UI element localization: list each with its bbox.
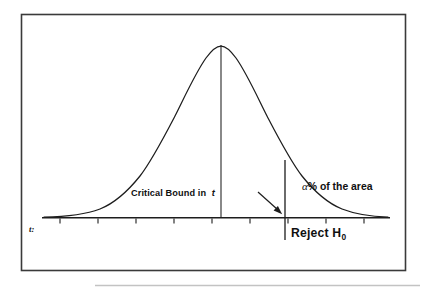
reject-region-label-subscript: 0	[341, 232, 346, 242]
critical-bound-label: Critical Bound in t	[131, 188, 216, 198]
reject-region-label-text: Reject H	[291, 226, 341, 240]
t-distribution-figure: t: Critical Bound in t α% of the area Re…	[0, 0, 427, 292]
figure-border	[22, 15, 406, 271]
alpha-area-label-text: % of the area	[308, 181, 373, 192]
reject-region-label: Reject H0	[291, 226, 346, 242]
alpha-area-label: α% of the area	[302, 180, 373, 192]
figure-root: t: Critical Bound in t α% of the area Re…	[0, 0, 427, 292]
critical-bound-label-text: Critical Bound in	[131, 188, 206, 198]
t-axis-label: t:	[29, 224, 34, 234]
